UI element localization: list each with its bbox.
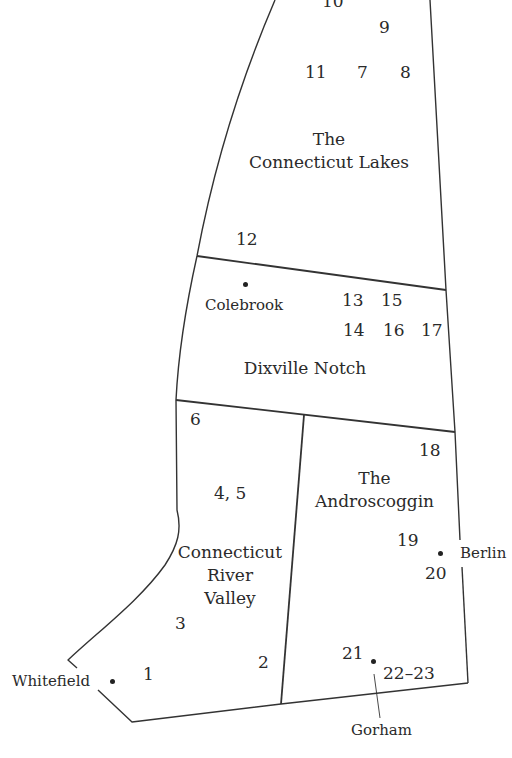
site-12: 12 [236,231,258,248]
site-20: 20 [425,565,447,582]
berlin-marker-icon [438,551,443,556]
region-line: Connecticut Lakes [246,151,412,174]
town-berlin: Berlin [460,546,506,561]
whitefield-marker-icon [110,679,115,684]
region-label-connecticut-lakes: The Connecticut Lakes [246,128,412,174]
region-line: The [246,128,412,151]
region-label-dixville-notch: Dixville Notch [236,357,374,380]
gorham-leader-line [374,674,380,718]
town-whitefield: Whitefield [12,674,90,689]
region-line: Androscoggin [312,490,437,513]
site-11: 11 [305,64,327,81]
region-line: Connecticut [174,541,286,564]
site-18: 18 [419,442,441,459]
divider-dixville-south [176,400,455,432]
site-6: 6 [190,411,201,428]
site-4-5: 4, 5 [214,485,246,502]
east-boundary-lower [462,567,468,683]
site-19: 19 [397,532,419,549]
site-1: 1 [143,666,154,683]
site-7: 7 [357,64,368,81]
site-10: 10 [322,0,344,10]
site-2: 2 [258,654,269,671]
gorham-marker-icon [371,659,376,664]
site-22-23: 22–23 [383,665,435,682]
divider-lakes-dixville [197,256,446,290]
site-14: 14 [343,322,365,339]
region-line: Dixville Notch [236,357,374,380]
site-8: 8 [400,64,411,81]
site-21: 21 [342,645,364,662]
site-15: 15 [381,292,403,309]
site-16: 16 [383,322,405,339]
region-line: River [174,564,286,587]
region-line: Valley [174,587,286,610]
site-9: 9 [379,19,390,36]
town-colebrook: Colebrook [205,298,283,313]
site-17: 17 [421,322,443,339]
region-label-connecticut-river-valley: Connecticut River Valley [174,541,286,610]
region-line: The [312,467,437,490]
site-13: 13 [342,292,364,309]
colebrook-marker-icon [243,282,248,287]
town-gorham: Gorham [351,723,412,738]
site-3: 3 [175,615,186,632]
region-label-androscoggin: The Androscoggin [312,467,437,513]
